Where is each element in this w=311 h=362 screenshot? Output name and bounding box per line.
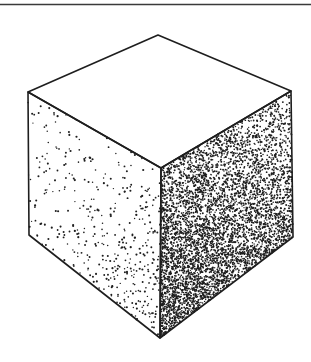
- cube-left-face: [28, 92, 161, 338]
- cube-top-face: [28, 35, 291, 168]
- right-face-stipple: [160, 95, 294, 337]
- left-face-stipple: [27, 102, 161, 335]
- stippled-cube-illustration: [0, 0, 311, 362]
